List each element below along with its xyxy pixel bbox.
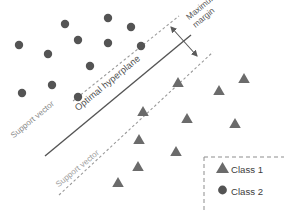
class1-point [132, 161, 144, 171]
legend-circle-icon [218, 186, 227, 195]
maximum-margin-arrow [171, 27, 197, 56]
svm-plot-canvas [0, 0, 284, 210]
class2-point [104, 14, 112, 22]
class2-point [74, 93, 82, 101]
class1-point [170, 146, 182, 156]
class1-point [112, 177, 124, 187]
class1-point [229, 118, 241, 128]
legend-markers [216, 162, 229, 194]
class1-point [181, 113, 193, 123]
class1-point [172, 77, 184, 87]
class2-point [48, 81, 56, 89]
class2-point [127, 23, 135, 31]
decision-boundary-lines [45, 16, 213, 195]
class2-point-group [15, 14, 145, 101]
svm-diagram-figure: Optimal hyperplane Support vector Suppor… [0, 0, 284, 210]
maximum-margin-arrow [171, 27, 197, 56]
class2-point [104, 39, 112, 47]
class1-point [238, 73, 250, 83]
lower-margin-boundary [59, 52, 213, 195]
class2-point [15, 41, 23, 49]
class1-point [137, 106, 149, 116]
class1-point [213, 85, 225, 95]
legend-item-label-class2: Class 2 [231, 186, 263, 197]
legend-item-label-class1: Class 1 [231, 164, 263, 175]
class2-point [86, 62, 94, 70]
optimal-hyperplane [45, 35, 191, 156]
class2-point [74, 36, 82, 44]
class2-point [44, 50, 52, 58]
class2-point [61, 20, 69, 28]
class1-point-group [112, 73, 250, 187]
class2-point [18, 89, 26, 97]
legend-triangle-icon [216, 162, 229, 173]
class1-point [133, 134, 145, 144]
class2-point [137, 42, 145, 50]
